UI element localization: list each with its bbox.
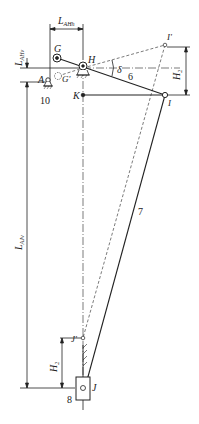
link6-alt-position [83, 45, 165, 68]
joint-g-prime [55, 73, 62, 80]
arrowhead-icon [185, 47, 188, 52]
arrowhead-icon [185, 90, 188, 95]
arrowhead-icon [26, 63, 29, 68]
joint-i [162, 92, 167, 97]
label-i-prime: I' [166, 32, 173, 42]
label-part-10: 10 [40, 95, 50, 106]
joint-j-prime [81, 336, 85, 340]
label-k: K [72, 90, 81, 101]
arrowhead-icon [26, 82, 29, 87]
joint-i-prime [163, 43, 167, 47]
label-a: A [37, 74, 45, 85]
label-g: G [54, 43, 61, 54]
label-part-7: 7 [138, 206, 143, 217]
label-j-prime: J' [71, 334, 78, 344]
joint-k [81, 93, 85, 97]
arrowhead-icon [61, 338, 64, 343]
label-h2-bottom: H2 [48, 362, 60, 373]
label-part-8: 8 [67, 394, 72, 405]
label-part-6: 6 [128, 71, 133, 82]
label-lajv: LAJv [13, 235, 25, 251]
label-h: H [87, 54, 96, 65]
arrowhead-icon [78, 28, 83, 31]
arrowhead-icon [50, 28, 55, 31]
joint-g-center [56, 57, 59, 60]
ground-hatch-icon [83, 344, 87, 366]
arrowhead-icon [61, 383, 64, 388]
label-h2-top: H2 [171, 70, 183, 81]
arrowhead-icon [26, 383, 29, 388]
label-delta: δ [117, 64, 122, 75]
link7-alt-position [83, 45, 165, 338]
mechanism-diagram: LAHh LAHv LAJv H2 H2 G G' H A 10 K I' I … [0, 0, 199, 424]
label-j: J [92, 382, 97, 393]
label-i: I [167, 98, 172, 108]
label-g-prime: G' [62, 74, 71, 84]
joint-j [81, 386, 86, 391]
link-7 [86, 95, 165, 384]
label-lahh: LAHh [57, 15, 75, 27]
label-lahv: LAHv [13, 49, 25, 67]
pivot-support-a-icon [43, 78, 53, 89]
